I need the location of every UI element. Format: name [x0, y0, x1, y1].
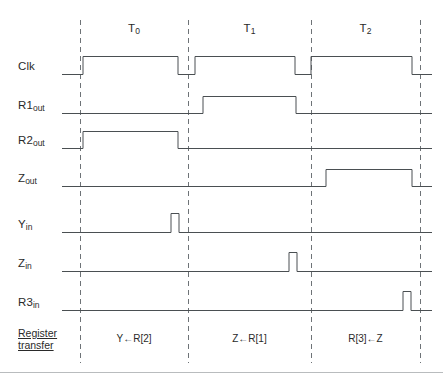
waveform-zin [62, 253, 432, 272]
waveform-r1out [62, 97, 432, 114]
signal-label-r1out: R1out [18, 100, 45, 112]
register-transfer-label-line1: Register [18, 327, 57, 339]
period-label-t1: T1 [220, 22, 280, 34]
signal-label-zin: Zin [18, 258, 32, 270]
register-transfer-t2: R[3]←Z [321, 333, 411, 344]
waveform-canvas [0, 0, 443, 380]
period-label-t2: T2 [336, 22, 396, 34]
period-label-t0: T0 [104, 22, 164, 34]
bottom-divider [0, 372, 443, 373]
signal-label-zout: Zout [18, 173, 37, 185]
waveform-yin [62, 214, 432, 233]
register-transfer-row-label: Registertransfer [18, 327, 57, 351]
timing-diagram: ClkR1outR2outZoutYinZinR3inT0T1T2Registe… [0, 0, 443, 380]
waveform-zout [62, 170, 432, 187]
signal-label-r3in: R3in [18, 297, 40, 309]
waveform-r3in [62, 292, 432, 311]
signal-label-r2out: R2out [18, 135, 45, 147]
waveform-clk [62, 57, 432, 75]
register-transfer-t1: Z←R[1] [205, 333, 295, 344]
waveform-r2out [62, 132, 432, 149]
signal-label-clk: Clk [18, 61, 35, 73]
register-transfer-t0: Y←R[2] [89, 333, 179, 344]
signal-label-yin: Yin [18, 219, 32, 231]
register-transfer-label-line2: transfer [18, 339, 57, 351]
